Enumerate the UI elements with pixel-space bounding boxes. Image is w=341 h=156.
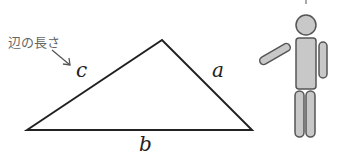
label-a: a [212, 60, 224, 80]
figure-left-leg [295, 91, 304, 137]
diagram-canvas [0, 0, 341, 156]
person-figure [258, 15, 327, 137]
label-c: c [76, 60, 87, 80]
figure-right-arm [319, 42, 327, 78]
figure-head [296, 15, 316, 35]
figure-left-arm [258, 42, 291, 66]
triangle [27, 40, 252, 130]
figure-right-leg [306, 91, 315, 137]
label-b: b [139, 134, 152, 154]
side-length-annotation: 辺の長さ [8, 32, 60, 51]
figure-body [296, 38, 316, 89]
arrow-icon [52, 50, 70, 65]
